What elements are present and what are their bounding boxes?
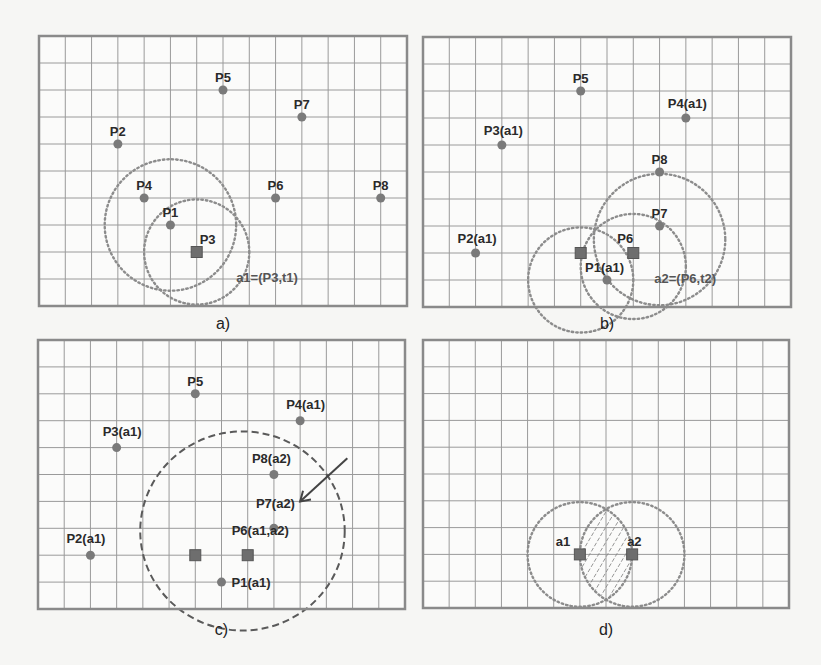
- point-marker: [269, 470, 278, 479]
- agent-square-marker: [575, 248, 586, 259]
- point-label: P8(a2): [252, 451, 291, 466]
- panel-a: P5P7P2P4P6P8P1P3a1=(P3,t1)a): [39, 36, 407, 332]
- point-label: P6(a1,a2): [232, 523, 289, 538]
- panel-caption: b): [600, 315, 614, 332]
- agent-square-marker: [190, 550, 201, 561]
- point-marker: [655, 222, 664, 231]
- point-label: P8: [373, 178, 389, 193]
- agent-square-marker: [574, 549, 585, 560]
- point-label: P2(a1): [458, 231, 497, 246]
- point-label: P4(a1): [286, 397, 325, 412]
- point-marker: [86, 551, 95, 560]
- point-marker: [140, 194, 149, 203]
- point-marker: [271, 194, 280, 203]
- agent-square-marker: [191, 247, 202, 258]
- agent-annotation: a1=(P3,t1): [236, 270, 298, 285]
- point-label: P5: [215, 70, 231, 85]
- point-marker: [681, 114, 690, 123]
- point-label: P2: [110, 124, 126, 139]
- panel-caption: d): [599, 621, 613, 638]
- point-marker: [655, 168, 664, 177]
- point-label: P1: [162, 205, 178, 220]
- point-label: P5: [187, 374, 203, 389]
- point-marker: [112, 443, 121, 452]
- point-label: P3(a1): [484, 123, 523, 138]
- agent-square-marker: [628, 248, 639, 259]
- point-marker: [376, 194, 385, 203]
- point-label: P7(a2): [256, 496, 295, 511]
- point-marker: [576, 87, 585, 96]
- point-marker: [297, 113, 306, 122]
- point-label: a2: [627, 534, 641, 549]
- point-label: P3(a1): [103, 424, 142, 439]
- point-label: a1: [556, 534, 570, 549]
- point-label: P3: [200, 232, 216, 247]
- panel-c: P5P4(a1)P3(a1)P8(a2)P7(a2)P2(a1)P6(a1,a2…: [38, 340, 405, 638]
- point-label: P6: [268, 178, 284, 193]
- panel-b: P5P4(a1)P3(a1)P8P7P2(a1)P6P1(a1)a2=(P6,t…: [423, 37, 791, 333]
- point-label: P4: [136, 178, 153, 193]
- point-marker: [191, 389, 200, 398]
- agent-square-marker: [627, 549, 638, 560]
- agent-square-marker: [242, 550, 253, 561]
- point-marker: [471, 249, 480, 258]
- point-marker: [166, 221, 175, 230]
- point-marker: [296, 416, 305, 425]
- point-label: P5: [573, 71, 589, 86]
- panel-caption: c): [215, 621, 228, 638]
- point-marker: [603, 276, 612, 285]
- panel-d: a1a2d): [423, 340, 789, 638]
- point-label: P2(a1): [66, 531, 105, 546]
- point-marker: [217, 578, 226, 587]
- point-label: P7: [294, 97, 310, 112]
- panel-caption: a): [216, 315, 230, 332]
- point-label: P4(a1): [668, 96, 707, 111]
- point-label: P1(a1): [232, 575, 271, 590]
- point-label: P1(a1): [585, 260, 624, 275]
- point-label: P7: [652, 206, 668, 221]
- point-marker: [497, 141, 506, 150]
- point-label: P8: [652, 152, 668, 167]
- figure: P5P7P2P4P6P8P1P3a1=(P3,t1)a) P5P4(a1)P3(…: [0, 0, 821, 665]
- point-marker: [113, 140, 122, 149]
- agent-annotation: a2=(P6,t2): [654, 271, 716, 286]
- point-label: P6: [617, 231, 633, 246]
- point-marker: [219, 86, 228, 95]
